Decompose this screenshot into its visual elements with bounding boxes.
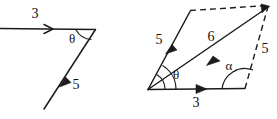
right-resultant-label: 6	[208, 29, 215, 44]
canvas-background	[0, 0, 277, 119]
right-base-label: 3	[193, 95, 200, 110]
vector-diagram-canvas: 3 5 θ 3 5 6 5 θ α	[0, 0, 277, 119]
left-theta-label: θ	[69, 31, 75, 46]
left-diagonal-label: 5	[73, 77, 80, 92]
left-horizontal-label: 3	[32, 6, 39, 21]
right-side-label: 5	[262, 41, 269, 56]
left-horizontal-line	[0, 29, 95, 30]
right-left-side-label: 5	[156, 32, 163, 47]
right-alpha-label: α	[226, 58, 233, 73]
right-theta-label: θ	[173, 67, 179, 82]
